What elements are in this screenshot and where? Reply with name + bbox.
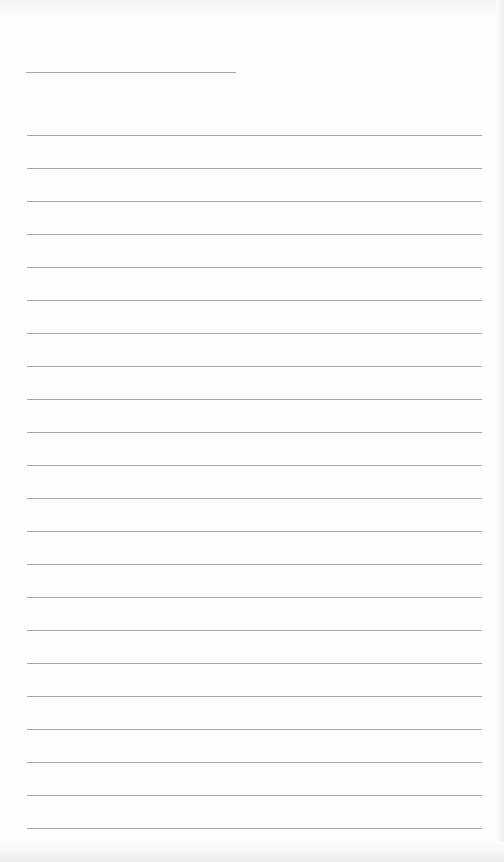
- ruled-line: [27, 432, 482, 433]
- ruled-line: [27, 333, 482, 334]
- lined-page: [0, 0, 504, 862]
- scan-right-edge: [496, 0, 504, 862]
- ruled-line: [27, 597, 482, 598]
- ruled-line: [27, 762, 482, 763]
- ruled-line: [27, 465, 482, 466]
- ruled-line: [27, 366, 482, 367]
- ruled-line: [27, 399, 482, 400]
- ruled-line: [27, 564, 482, 565]
- scan-bottom-edge: [0, 842, 504, 862]
- ruled-line: [27, 729, 482, 730]
- header-line: [26, 72, 236, 73]
- ruled-line: [27, 267, 482, 268]
- scan-top-edge: [0, 0, 504, 18]
- ruled-line: [27, 234, 482, 235]
- ruled-line: [27, 201, 482, 202]
- ruled-line: [27, 300, 482, 301]
- ruled-line: [27, 135, 482, 136]
- ruled-line: [27, 630, 482, 631]
- ruled-line: [27, 498, 482, 499]
- ruled-line: [27, 531, 482, 532]
- ruled-line: [27, 828, 482, 829]
- ruled-line: [27, 795, 482, 796]
- ruled-line: [27, 663, 482, 664]
- ruled-line: [27, 696, 482, 697]
- ruled-line: [27, 168, 482, 169]
